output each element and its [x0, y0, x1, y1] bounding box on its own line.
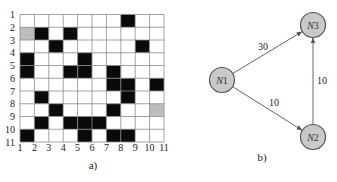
- free-cell: [150, 91, 164, 104]
- free-cell: [150, 117, 164, 130]
- free-cell: [49, 53, 63, 66]
- x-tick-label: 6: [90, 142, 95, 153]
- edge-weight-label: 30: [258, 41, 268, 52]
- free-cell: [121, 66, 135, 79]
- free-cell: [135, 66, 149, 79]
- free-cell: [49, 27, 63, 40]
- free-cell: [135, 15, 149, 28]
- free-cell: [63, 40, 77, 53]
- free-cell: [150, 15, 164, 28]
- obstacle-cell: [34, 91, 48, 104]
- y-tick-label: 3: [10, 35, 15, 46]
- y-axis-tick-labels: 1234567891011: [5, 9, 15, 148]
- free-cell: [34, 66, 48, 79]
- graph-panel: 301010 N1N2N3 b): [210, 13, 328, 165]
- grid-map-panel: 1234567891011 1234567891011 a): [5, 9, 169, 172]
- obstacle-cell: [49, 104, 63, 117]
- free-cell: [20, 117, 34, 130]
- free-cell: [121, 27, 135, 40]
- free-cell: [20, 91, 34, 104]
- obstacle-cell: [20, 129, 34, 142]
- free-cell: [135, 104, 149, 117]
- free-cell: [135, 53, 149, 66]
- free-cell: [34, 15, 48, 28]
- x-tick-label: 7: [104, 142, 109, 153]
- obstacle-cell: [92, 117, 106, 130]
- x-tick-label: 8: [118, 142, 123, 153]
- free-cell: [135, 27, 149, 40]
- obstacle-cell: [78, 53, 92, 66]
- free-cell: [78, 91, 92, 104]
- free-cell: [106, 15, 120, 28]
- edge-n1-n2: [233, 87, 302, 130]
- node-n2: N2: [301, 125, 326, 150]
- graph-nodes: N1N2N3: [210, 13, 326, 150]
- free-cell: [63, 104, 77, 117]
- obstacle-cell: [34, 27, 48, 40]
- free-cell: [135, 129, 149, 142]
- obstacle-cell: [78, 129, 92, 142]
- edge-weight-label: 10: [317, 75, 327, 86]
- free-cell: [20, 104, 34, 117]
- free-cell: [78, 104, 92, 117]
- y-tick-label: 5: [10, 60, 15, 71]
- free-cell: [63, 129, 77, 142]
- free-cell: [63, 91, 77, 104]
- x-tick-label: 3: [46, 142, 51, 153]
- free-cell: [92, 53, 106, 66]
- free-cell: [63, 15, 77, 28]
- free-cell: [34, 53, 48, 66]
- free-cell: [49, 78, 63, 91]
- free-cell: [150, 53, 164, 66]
- free-cell: [78, 40, 92, 53]
- obstacle-cell: [121, 91, 135, 104]
- free-cell: [34, 129, 48, 142]
- free-cell: [34, 40, 48, 53]
- obstacle-cell: [135, 40, 149, 53]
- free-cell: [63, 78, 77, 91]
- free-cell: [20, 78, 34, 91]
- figure: 1234567891011 1234567891011 a) 301010 N1…: [0, 0, 337, 182]
- free-cell: [121, 117, 135, 130]
- graph-edges: 301010: [233, 32, 327, 130]
- obstacle-cell: [49, 40, 63, 53]
- x-tick-label: 10: [145, 142, 155, 153]
- y-tick-label: 1: [10, 9, 15, 20]
- x-tick-label: 11: [159, 142, 169, 153]
- free-cell: [34, 78, 48, 91]
- obstacle-cell: [106, 104, 120, 117]
- free-cell: [92, 66, 106, 79]
- free-cell: [92, 15, 106, 28]
- free-cell: [106, 91, 120, 104]
- obstacle-cell: [106, 66, 120, 79]
- node-label: N2: [306, 132, 319, 143]
- free-cell: [20, 40, 34, 53]
- free-cell: [121, 104, 135, 117]
- marked-cell: [150, 104, 164, 117]
- y-tick-label: 9: [10, 111, 15, 122]
- free-cell: [106, 53, 120, 66]
- obstacle-cell: [106, 78, 120, 91]
- edge-weight-label: 10: [269, 97, 279, 108]
- free-cell: [78, 78, 92, 91]
- obstacle-cell: [34, 117, 48, 130]
- free-cell: [150, 129, 164, 142]
- free-cell: [92, 27, 106, 40]
- obstacle-cell: [78, 66, 92, 79]
- x-tick-label: 4: [61, 142, 66, 153]
- node-label: N3: [306, 20, 319, 31]
- free-cell: [20, 15, 34, 28]
- free-cell: [92, 91, 106, 104]
- free-cell: [135, 117, 149, 130]
- free-cell: [63, 53, 77, 66]
- x-tick-label: 9: [133, 142, 138, 153]
- free-cell: [49, 129, 63, 142]
- y-tick-label: 7: [10, 86, 15, 97]
- free-cell: [49, 91, 63, 104]
- free-cell: [92, 129, 106, 142]
- y-tick-label: 6: [10, 73, 15, 84]
- marked-cell: [20, 27, 34, 40]
- obstacle-cell: [20, 66, 34, 79]
- node-n3: N3: [301, 13, 326, 38]
- free-cell: [150, 66, 164, 79]
